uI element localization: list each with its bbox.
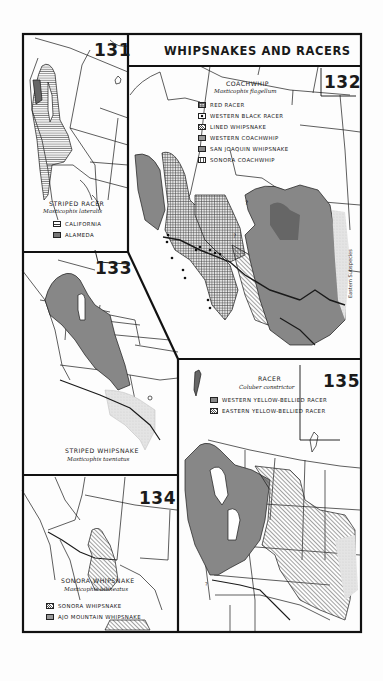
map-number-135: 135 <box>323 371 360 391</box>
dot-swatch-icon <box>198 113 206 119</box>
dark-hatch-swatch-icon <box>198 146 206 152</box>
legend-item: AJO MOUNTAIN WHIPSNAKE <box>46 614 141 620</box>
legend-label: AJO MOUNTAIN WHIPSNAKE <box>58 614 141 620</box>
map-131 <box>30 38 128 220</box>
map-number-133: 133 <box>95 258 132 278</box>
legend-item: SAN JOAQUIN WHIPSNAKE <box>198 146 289 152</box>
vertical-lines-swatch-icon <box>198 157 206 163</box>
species-scientific-name: Masticophis taeniatus <box>67 456 129 462</box>
dark-hatch-swatch-icon <box>210 397 218 403</box>
species-scientific-name: Coluber constrictor <box>239 384 295 390</box>
legend-item: LINED WHIPSNAKE <box>198 124 266 130</box>
legend-item: ALAMEDA <box>53 232 94 238</box>
crosshatch-swatch-icon <box>53 232 61 238</box>
map-number-134: 134 <box>139 488 176 508</box>
horizontal-lines-swatch-icon <box>53 221 61 227</box>
legend-label: SONORA WHIPSNAKE <box>58 603 122 609</box>
legend-label: WESTERN YELLOW-BELLIED RACER <box>222 397 327 403</box>
legend-item: CALIFORNIA <box>53 221 101 227</box>
species-common-name: COACHWHIP <box>226 80 269 87</box>
map-number-132: 132 <box>324 72 361 92</box>
uncertain-range-mark: ? <box>233 232 236 239</box>
fine-crosshatch-swatch-icon <box>198 135 206 141</box>
maps-artwork <box>0 0 383 681</box>
legend-item: SONORA COACHWHIP <box>198 157 275 163</box>
legend-item: WESTERN COACHWHIP <box>198 135 279 141</box>
diagonal-lines-swatch-icon <box>198 124 206 130</box>
legend-item: RED RACER <box>198 102 245 108</box>
species-scientific-name: Masticophis flagellum <box>214 88 277 94</box>
crosshatch-swatch-icon <box>46 614 54 620</box>
legend-label: WESTERN BLACK RACER <box>210 113 283 119</box>
species-common-name: SONORA WHIPSNAKE <box>61 577 135 584</box>
species-common-name: STRIPED RACER <box>49 200 104 207</box>
legend-label: WESTERN COACHWHIP <box>210 135 279 141</box>
legend-label: SAN JOAQUIN WHIPSNAKE <box>210 146 289 152</box>
legend-item: WESTERN BLACK RACER <box>198 113 283 119</box>
range-maps-page: WHIPSNAKES AND RACERS 131 STRIPED RACER … <box>0 0 383 681</box>
diagonal-lines-swatch-icon <box>210 408 218 414</box>
legend-item: EASTERN YELLOW-BELLIED RACER <box>210 408 326 414</box>
uncertain-range-mark: ? <box>205 581 208 587</box>
grid-swatch-icon <box>198 102 206 108</box>
eastern-subspecies-note: Eastern Subspecies <box>347 249 353 298</box>
legend-label: ALAMEDA <box>65 232 94 238</box>
species-common-name: STRIPED WHIPSNAKE <box>65 447 139 454</box>
legend-label: RED RACER <box>210 102 245 108</box>
page-title: WHIPSNAKES AND RACERS <box>164 44 351 58</box>
diagonal-lines-swatch-icon <box>46 603 54 609</box>
uncertain-range-mark: ? <box>245 199 248 206</box>
legend-label: CALIFORNIA <box>65 221 101 227</box>
legend-label: EASTERN YELLOW-BELLIED RACER <box>222 408 326 414</box>
legend-item: WESTERN YELLOW-BELLIED RACER <box>210 397 327 403</box>
legend-item: SONORA WHIPSNAKE <box>46 603 122 609</box>
map-133 <box>22 260 178 450</box>
species-common-name: RACER <box>258 375 281 382</box>
map-number-131: 131 <box>94 40 131 60</box>
species-scientific-name: Masticophis lateralis <box>43 208 102 214</box>
species-scientific-name: Masticophis bilineatus <box>64 586 128 592</box>
legend-label: SONORA COACHWHIP <box>210 157 275 163</box>
legend-label: LINED WHIPSNAKE <box>210 124 266 130</box>
